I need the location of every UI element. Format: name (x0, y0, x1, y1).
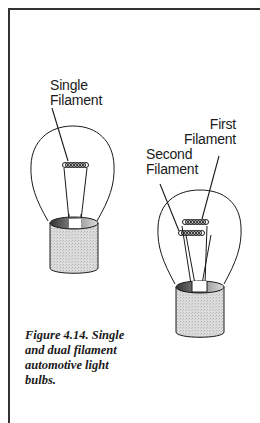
label-single-filament: Single Filament (50, 78, 102, 108)
label-line: Filament (146, 162, 198, 177)
label-line: Filament (180, 132, 236, 147)
label-line: Single (50, 78, 102, 93)
label-line: Second (146, 147, 198, 162)
second-filament-coil (179, 231, 205, 236)
figure-caption: Figure 4.14. Single and dual filament au… (25, 328, 135, 388)
dual-filament-bulb (158, 156, 241, 337)
first-filament-coil (183, 220, 209, 225)
label-first-filament: First Filament (180, 117, 236, 147)
single-filament-bulb (31, 108, 114, 273)
single-filament-coil (63, 163, 89, 168)
label-line: First (180, 117, 236, 132)
label-second-filament: Second Filament (146, 147, 198, 177)
label-line: Filament (50, 93, 102, 108)
